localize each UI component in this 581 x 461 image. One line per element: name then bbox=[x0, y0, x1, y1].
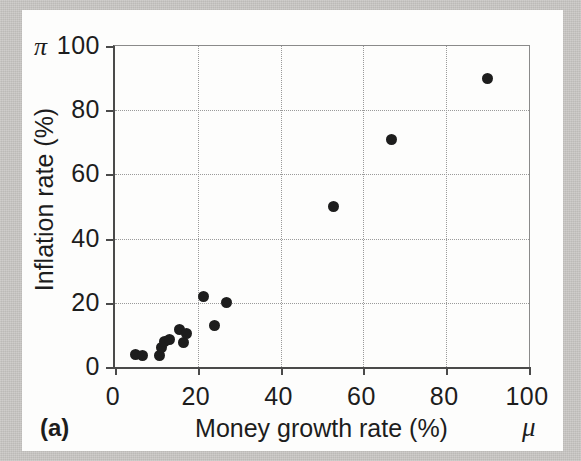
panel-label: (a) bbox=[40, 414, 69, 442]
data-point bbox=[386, 134, 397, 145]
x-tick-label: 80 bbox=[430, 382, 459, 411]
y-tick-label: 80 bbox=[71, 95, 100, 124]
x-tick-mark bbox=[363, 367, 365, 375]
x-tick-label: 20 bbox=[181, 382, 210, 411]
x-tick-label: 0 bbox=[106, 382, 120, 411]
x-tick-mark bbox=[529, 367, 531, 375]
data-point bbox=[209, 320, 220, 331]
x-tick-mark bbox=[198, 367, 200, 375]
data-point bbox=[482, 73, 493, 84]
gridline-horizontal bbox=[115, 174, 529, 175]
x-tick-mark bbox=[115, 367, 117, 375]
x-tick-mark bbox=[281, 367, 283, 375]
gridline-horizontal bbox=[115, 303, 529, 304]
y-tick-mark bbox=[106, 303, 115, 305]
data-point bbox=[137, 350, 148, 361]
gridline-vertical bbox=[363, 46, 364, 367]
data-point bbox=[328, 201, 339, 212]
y-tick-label: 100 bbox=[57, 31, 100, 60]
data-point bbox=[181, 328, 192, 339]
gridline-vertical bbox=[446, 46, 447, 367]
x-axis-tick-labels: 020406080100 bbox=[113, 382, 530, 416]
plot-area bbox=[113, 45, 530, 369]
y-tick-mark bbox=[106, 110, 115, 112]
scatter-chart-figure: π μ (a) Inflation rate (%) Money growth … bbox=[22, 10, 563, 451]
y-tick-label: 60 bbox=[71, 159, 100, 188]
x-axis-title: Money growth rate (%) bbox=[113, 414, 530, 443]
x-tick-label: 40 bbox=[264, 382, 293, 411]
figure-page: π μ (a) Inflation rate (%) Money growth … bbox=[22, 10, 563, 451]
gridline-horizontal bbox=[115, 110, 529, 111]
gridline-horizontal bbox=[115, 239, 529, 240]
y-tick-mark bbox=[106, 46, 115, 48]
data-point bbox=[221, 297, 232, 308]
gridline-vertical bbox=[281, 46, 282, 367]
y-tick-label: 40 bbox=[71, 223, 100, 252]
data-point bbox=[164, 334, 175, 345]
data-point bbox=[198, 291, 209, 302]
y-tick-mark bbox=[106, 367, 115, 369]
y-tick-mark bbox=[106, 239, 115, 241]
x-tick-mark bbox=[446, 367, 448, 375]
gridline-vertical bbox=[198, 46, 199, 367]
x-tick-label: 60 bbox=[347, 382, 376, 411]
y-tick-label: 20 bbox=[71, 287, 100, 316]
y-tick-label: 0 bbox=[86, 352, 100, 381]
y-axis-tick-labels: 020406080100 bbox=[22, 45, 100, 369]
x-tick-label: 100 bbox=[505, 382, 548, 411]
data-point bbox=[178, 337, 189, 348]
y-tick-mark bbox=[106, 174, 115, 176]
